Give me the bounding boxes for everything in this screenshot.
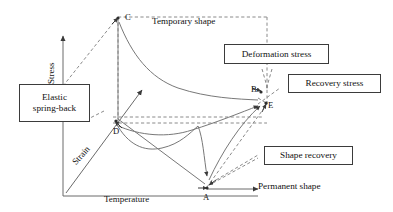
dash-shape-recovery-leader2	[213, 158, 258, 183]
point-label-c: C	[125, 12, 131, 22]
callout-deformation-stress: Deformation stress	[224, 44, 329, 64]
callout-shape-recovery: Shape recovery	[264, 146, 353, 165]
point-label-d: D	[113, 126, 119, 136]
axis-label-stress: Stress	[46, 62, 56, 84]
arrow-A-recovery	[209, 180, 216, 185]
annotation-temporary-shape: Temporary shape	[152, 16, 215, 26]
dash-A-to-E	[207, 104, 267, 187]
point-label-e: E	[268, 100, 273, 110]
callout-elastic-line2: spring-back	[33, 103, 76, 114]
annotation-permanent-shape: Permanent shape	[258, 181, 321, 191]
callout-recovery-stress: Recovery stress	[288, 74, 381, 93]
arrow-into-E	[262, 104, 266, 112]
dash-elastic-leader	[88, 111, 104, 119]
dash-stress-to-C	[63, 17, 118, 86]
point-label-b: B	[251, 84, 257, 94]
dash-shape-recovery-leader	[216, 155, 258, 180]
point-label-a: A	[203, 192, 209, 202]
vertex-markers	[114, 16, 267, 189]
diagram-canvas: Stress Temperature Strain C B E D A Temp…	[0, 0, 393, 212]
axis-label-temperature: Temperature	[104, 194, 149, 204]
line-D-to-A-straight	[118, 119, 205, 184]
callout-elastic-line1: Elastic	[42, 92, 67, 103]
callout-elastic-spring-back: Elastic spring-back	[19, 84, 90, 122]
curve-D-to-E	[116, 106, 258, 135]
curve-D-to-A	[116, 123, 207, 176]
